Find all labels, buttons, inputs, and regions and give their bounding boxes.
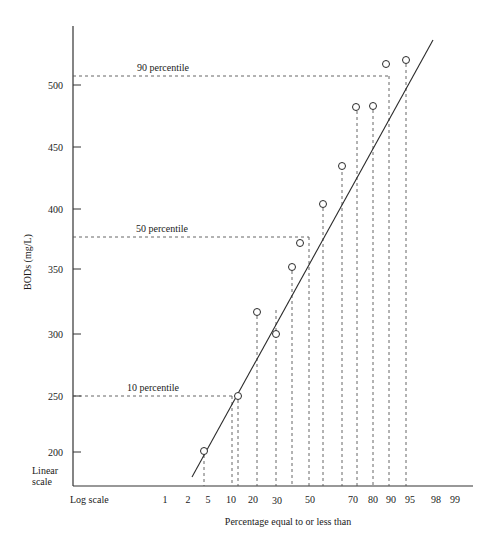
log-scale-label: Log scale [70, 494, 109, 505]
x-tick-70: 70 [348, 494, 358, 505]
x-tick-5: 5 [206, 494, 211, 505]
y-tick-500: 500 [48, 80, 63, 91]
x-tick-98: 98 [431, 494, 441, 505]
drop-lines [204, 64, 406, 486]
y-tick-250: 250 [48, 391, 63, 402]
x-tick-10: 10 [226, 494, 236, 505]
y-tick-350: 350 [48, 264, 63, 275]
data-point [383, 61, 390, 68]
x-tick-95: 95 [405, 494, 415, 505]
data-point [403, 57, 410, 64]
data-point [320, 201, 327, 208]
x-tick-90: 90 [386, 494, 396, 505]
y-tick-200: 200 [48, 447, 63, 458]
p10-label: 10 percentile [127, 382, 179, 393]
x-tick-99: 99 [450, 494, 460, 505]
data-point [273, 331, 280, 338]
y-tick-400: 400 [48, 204, 63, 215]
data-point [297, 240, 304, 247]
data-point [235, 393, 242, 400]
y-axis-title: BODs (mg/L) [22, 234, 34, 290]
data-point [289, 264, 296, 271]
probability-plot: 500 450 400 350 300 250 200 BODs (mg/L) … [0, 0, 498, 539]
x-tick-20: 20 [248, 494, 258, 505]
data-point [201, 448, 208, 455]
x-tick-50: 50 [305, 494, 315, 505]
y-tick-300: 300 [48, 329, 63, 340]
y-tick-450: 450 [48, 142, 63, 153]
y-ticks [73, 85, 81, 452]
x-tick-30: 30 [272, 495, 282, 506]
data-point [353, 104, 360, 111]
fit-line [192, 40, 433, 477]
scale-label: scale [32, 476, 53, 487]
data-point [254, 309, 261, 316]
p50-label: 50 percentile [136, 223, 188, 234]
data-point [339, 163, 346, 170]
x-axis-title: Percentage equal to or less than [225, 516, 351, 527]
data-point [370, 103, 377, 110]
linear-label: Linear [32, 465, 59, 476]
x-tick-labels: 1 2 5 10 20 30 50 70 80 90 95 98 99 [163, 494, 461, 506]
x-tick-1: 1 [163, 494, 168, 505]
p90-label: 90 percentile [137, 62, 189, 73]
y-tick-labels: 500 450 400 350 300 250 200 [48, 80, 63, 458]
data-points [201, 57, 410, 455]
x-tick-2: 2 [186, 494, 191, 505]
x-tick-80: 80 [368, 494, 378, 505]
